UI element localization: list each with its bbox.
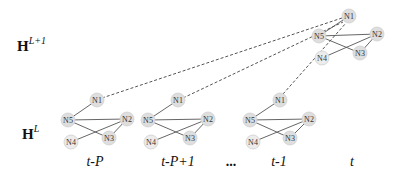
svg-text:N5: N5 [63,116,73,125]
svg-text:N3: N3 [355,49,365,58]
time-label-t-P: t-P [86,154,104,169]
node-N1: N1 [171,93,185,107]
node-N2: N2 [302,112,316,126]
node-N4: N4 [246,135,260,149]
svg-text:N1: N1 [92,96,102,105]
node-N5: N5 [312,29,326,43]
svg-text:N2: N2 [122,115,132,124]
connection-t-P [102,18,342,98]
node-N5: N5 [243,113,257,127]
time-label-t: t [350,154,355,169]
node-N3: N3 [283,131,297,145]
node-N4: N4 [64,135,78,149]
time-label-t-1: t-1 [271,154,287,169]
graph-t-1: N1 N5 N2 N3 N4 [243,93,316,149]
node-N5: N5 [141,113,155,127]
svg-text:N1: N1 [275,96,285,105]
svg-text:N5: N5 [314,32,324,41]
node-N1: N1 [342,9,356,23]
svg-text:N3: N3 [104,134,114,143]
svg-text:N5: N5 [143,116,153,125]
svg-text:N4: N4 [66,138,76,147]
svg-text:N4: N4 [317,54,327,63]
node-N2: N2 [120,112,134,126]
node-N1: N1 [90,93,104,107]
ellipsis: ... [226,154,237,169]
node-N3: N3 [353,46,367,60]
svg-text:N4: N4 [248,138,258,147]
time-label-t-P+1: t-P+1 [161,154,195,169]
node-N5: N5 [61,113,75,127]
node-N2: N2 [370,27,384,41]
svg-text:N2: N2 [304,115,314,124]
node-N4: N4 [315,51,329,65]
svg-text:N2: N2 [372,30,382,39]
node-N3: N3 [102,131,116,145]
node-N4: N4 [144,135,158,149]
svg-text:N5: N5 [245,116,255,125]
layer-label-lower: HL [22,123,40,142]
node-N1: N1 [273,93,287,107]
layer-label-upper: HL+1 [17,35,46,54]
temporal-graph-diagram: N1 N5 N2 N3 N4 N1 N5 N2 N3 N4 N1 N5 N2 N… [0,0,407,176]
svg-text:N2: N2 [203,115,213,124]
graph-t-P: N1 N5 N2 N3 N4 [61,93,134,149]
graph-t-P+1: N1 N5 N2 N3 N4 [141,93,215,149]
svg-text:N4: N4 [146,138,156,147]
svg-text:N3: N3 [185,134,195,143]
svg-text:N1: N1 [173,96,183,105]
node-N3: N3 [183,131,197,145]
dashed-connections [102,18,346,98]
node-N2: N2 [201,112,215,126]
svg-text:N3: N3 [285,134,295,143]
svg-text:N1: N1 [344,12,354,21]
graph-t-upper: N1 N5 N2 N3 N4 [312,9,384,65]
